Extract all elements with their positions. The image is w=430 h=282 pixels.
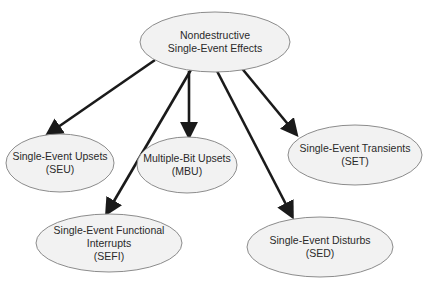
node-label-line: Single-Event Upsets	[12, 150, 107, 163]
arrow-seu	[48, 60, 155, 134]
node-root-label: NondestructiveSingle-Event Effects	[168, 29, 262, 55]
node-label-line: Single-Event Functional	[54, 224, 165, 237]
node-mbu-label: Multiple-Bit Upsets(MBU)	[143, 152, 231, 178]
node-label-line: Single-Event Effects	[168, 42, 262, 55]
node-sed-label: Single-Event Disturbs(SED)	[270, 234, 371, 260]
node-set-label: Single-Event Transients(SET)	[300, 142, 411, 168]
node-label-line: (SEU)	[12, 163, 107, 176]
node-label-line: Interrupts	[54, 237, 165, 250]
node-label-line: Nondestructive	[168, 29, 262, 42]
node-label-line: (SEFI)	[54, 250, 165, 263]
arrow-sed	[217, 71, 292, 216]
node-label-line: (SET)	[300, 155, 411, 168]
node-seu-label: Single-Event Upsets(SEU)	[12, 150, 107, 176]
node-label-line: (SED)	[270, 247, 371, 260]
node-label-line: (MBU)	[143, 165, 231, 178]
node-label-line: Single-Event Disturbs	[270, 234, 371, 247]
node-sefi-label: Single-Event FunctionalInterrupts(SEFI)	[54, 224, 165, 263]
node-label-line: Single-Event Transients	[300, 142, 411, 155]
node-label-line: Multiple-Bit Upsets	[143, 152, 231, 165]
